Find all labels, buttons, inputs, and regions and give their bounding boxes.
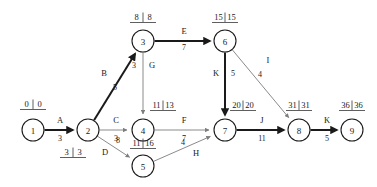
node-late-time-4: 13 [165,100,174,110]
edge-label-activity: B [101,68,107,78]
node-time-label-6: 1515 [212,12,238,23]
node-8[interactable]: 8 [288,119,310,141]
node-early-time-7: 20 [232,100,241,110]
node-time-label-1: 00 [20,99,46,110]
network-diagram: A3B5C3D8E7G3F7H4K5I4J11K5 123456789 0033… [0,0,377,187]
node-2[interactable]: 2 [77,119,99,141]
node-label-5: 5 [141,162,146,172]
edge-labels-layer: A3B5C3D8E7G3F7H4K5I4J11K5 [57,26,331,158]
node-label-4: 4 [141,126,146,136]
node-late-time-2: 3 [77,147,81,157]
edge-label-duration: 7 [182,43,186,52]
node-time-label-8: 3131 [286,100,312,111]
edge-label-duration: 3 [58,134,62,143]
edge-label-activity: C [113,115,119,125]
edge-label-activity: K [324,115,331,125]
edge-label-activity: F [182,115,187,125]
node-early-time-4: 11 [152,100,160,110]
edge-label-activity: D [102,147,108,157]
node-late-time-6: 15 [227,12,236,22]
node-early-time-6: 15 [214,12,223,22]
node-late-time-9: 36 [354,100,363,110]
node-late-time-1: 0 [37,99,41,109]
network-diagram-canvas: A3B5C3D8E7G3F7H4K5I4J11K5 123456789 0033… [0,0,377,187]
edge-label-activity: G [149,60,155,70]
node-early-time-9: 36 [341,100,350,110]
node-time-label-2: 33 [60,147,86,158]
node-early-time-5: 11 [132,138,140,148]
node-label-7: 7 [223,126,228,136]
edge-label-duration: 8 [116,136,120,145]
edge-label-activity: J [260,115,264,125]
node-6[interactable]: 6 [214,30,236,52]
node-time-label-4: 1113 [150,100,176,111]
node-late-time-7: 20 [245,100,254,110]
node-time-label-3: 88 [130,12,156,23]
node-5[interactable]: 5 [132,155,154,177]
node-label-3: 3 [141,37,146,47]
node-time-label-7: 2020 [230,100,256,111]
edge-label-duration: 4 [181,138,185,147]
node-label-8: 8 [297,126,302,136]
node-early-time-2: 3 [64,147,68,157]
node-time-label-9: 3636 [339,100,365,111]
edge-label-duration: 11 [258,134,266,143]
node-label-2: 2 [86,126,91,136]
node-3[interactable]: 3 [132,30,154,52]
edge-label-duration: 5 [113,83,117,92]
node-late-time-8: 31 [301,100,310,110]
node-early-time-1: 0 [24,99,28,109]
node-9[interactable]: 9 [341,119,363,141]
node-late-time-5: 16 [145,138,154,148]
edge-label-duration: 5 [325,134,329,143]
node-1[interactable]: 1 [22,119,44,141]
edge-label-activity: K [213,68,220,78]
edge-label-duration: 4 [258,70,262,79]
node-7[interactable]: 7 [214,119,236,141]
edge-label-duration: 3 [132,61,136,70]
edge-label-activity: H [193,148,199,158]
edge-label-activity: I [267,55,270,65]
time-labels-layer: 003388111311161515202031313636 [20,12,365,158]
edge-label-activity: A [57,115,64,125]
node-label-1: 1 [31,126,36,136]
edge-label-duration: 5 [231,69,235,78]
node-early-time-8: 31 [288,100,297,110]
edge-i-6-8 [232,50,288,118]
node-late-time-3: 8 [147,12,151,22]
node-time-label-5: 1116 [130,138,156,149]
node-label-9: 9 [350,126,355,136]
node-early-time-3: 8 [134,12,138,22]
edge-label-activity: E [181,26,186,36]
node-label-6: 6 [223,37,228,47]
